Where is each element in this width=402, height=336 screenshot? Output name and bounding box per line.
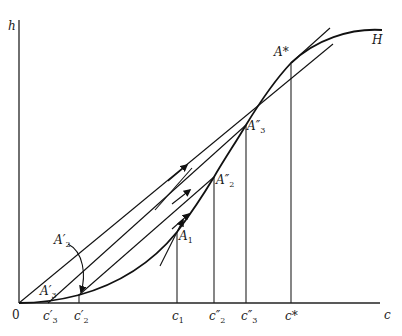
point-A1-label: A1: [179, 230, 193, 245]
label-sub: 1: [179, 316, 184, 325]
axes: [19, 20, 380, 303]
rays: [19, 44, 333, 303]
label-main: A″: [247, 119, 260, 133]
label-sub: 3: [252, 316, 257, 325]
tick-c3-dprime: c″3: [241, 310, 257, 325]
label-sub: 3: [52, 316, 57, 325]
label-sub: 3: [51, 291, 56, 300]
tick-c2-prime: c′2: [74, 310, 89, 325]
point-A2-prime-label: A′2: [54, 234, 70, 249]
point-A3-prime-label: A′3: [40, 285, 56, 300]
label-main: A″: [216, 173, 229, 187]
label-sub: 2: [83, 316, 88, 325]
point-A2-dprime-label: A″2: [216, 174, 234, 189]
label-main: c″: [241, 309, 252, 323]
label-sub: 2: [65, 240, 70, 249]
label-sub: 2: [229, 180, 234, 189]
tick-c3-prime: c′3: [43, 310, 58, 325]
label-main: A′: [54, 233, 65, 247]
tick-c2-dprime: c″2: [209, 310, 225, 325]
label-sub: 3: [260, 126, 265, 135]
ray-origin-to-A-star: [19, 44, 333, 303]
ray-c3-prime-to-A3: [48, 125, 246, 303]
x-axis-label: c: [384, 309, 391, 321]
label-sub: 1: [188, 236, 193, 245]
point-A-star-label: A*: [274, 46, 289, 58]
curve-H-label: H: [372, 34, 382, 46]
tick-c-star: c*: [285, 310, 298, 322]
point-A3-dprime-label: A″3: [247, 120, 265, 135]
origin-label: 0: [12, 309, 20, 321]
arrow-ray-2: [172, 190, 190, 204]
tangent-segment-upper: [155, 168, 192, 210]
arrow-ray-1: [168, 165, 187, 181]
y-axis-label: h: [8, 20, 16, 32]
tangent-at-A-star: [291, 28, 330, 63]
label-main: A: [179, 229, 188, 243]
diagram-canvas: [0, 0, 402, 336]
tick-c1: c1: [172, 310, 184, 325]
label-main: A′: [40, 284, 51, 298]
ray-c2-prime-to-A2: [79, 177, 214, 295]
label-main: c″: [209, 309, 220, 323]
label-main: c: [172, 309, 179, 323]
label-sub: 2: [220, 316, 225, 325]
